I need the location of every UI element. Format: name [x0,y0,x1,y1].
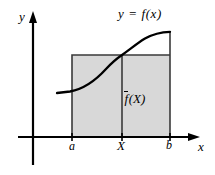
shaded-mean-value-rectangle [72,55,170,137]
tick-label-a: a [69,140,75,152]
mean-value-f-symbol: f [124,92,129,105]
mean-value-argument: (X) [129,91,146,106]
x-axis-label: x [198,140,204,153]
tick-label-b: b [166,139,172,151]
mean-value-function-diagram: y = f(x) y x a X b f(X) [0,0,215,175]
diagram-canvas [0,0,215,175]
mean-value-label: f(X) [124,92,145,105]
curve-equation-label: y = f(x) [118,7,162,20]
tick-label-X: X [117,139,125,152]
y-axis-label: y [19,10,25,23]
y-axis-arrowhead-icon [29,11,37,23]
